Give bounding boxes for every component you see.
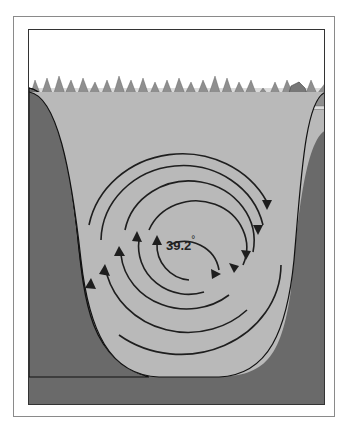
temperature-label: 39.2° — [166, 236, 195, 253]
diagram-panel: 39.2° — [28, 29, 325, 405]
lake-diagram — [29, 30, 325, 405]
